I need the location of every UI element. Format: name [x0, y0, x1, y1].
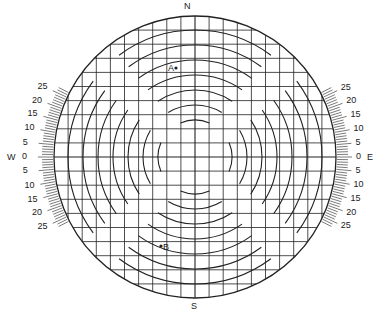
- south-label: S: [191, 302, 197, 311]
- scale-label-left: 20: [32, 96, 42, 105]
- scale-label-left: 10: [25, 181, 35, 190]
- west-label: W: [7, 153, 16, 162]
- scale-label-right: 10: [354, 124, 364, 133]
- scale-label-right: 25: [341, 221, 351, 230]
- point-a-marker: [174, 66, 177, 69]
- point-b-label: B: [163, 243, 169, 252]
- scale-label-right: 15: [350, 194, 360, 203]
- scale-label-left: 5: [23, 166, 28, 175]
- diagram-canvas: N S W E A B 2525202015151010550055101015…: [0, 0, 378, 315]
- scale-label-right: 10: [354, 180, 364, 189]
- scale-label-right: 5: [355, 138, 360, 147]
- point-a-label: A: [168, 64, 174, 73]
- scale-label-left: 25: [37, 222, 47, 231]
- scale-label-left: 10: [25, 123, 35, 132]
- scale-label-right: 25: [341, 83, 351, 92]
- scale-label-left: 0: [22, 152, 27, 161]
- scale-label-left: 15: [28, 195, 38, 204]
- east-label: E: [367, 153, 373, 162]
- scale-label-right: 20: [346, 208, 356, 217]
- scale-label-right: 0: [356, 152, 361, 161]
- scale-label-right: 20: [346, 96, 356, 105]
- scale-label-left: 20: [32, 208, 42, 217]
- scale-label-right: 5: [355, 166, 360, 175]
- north-label: N: [184, 2, 191, 11]
- scale-label-left: 5: [23, 138, 28, 147]
- polar-grid-diagram: [0, 0, 378, 315]
- scale-label-left: 15: [28, 109, 38, 118]
- scale-label-right: 15: [350, 110, 360, 119]
- scale-label-left: 25: [37, 82, 47, 91]
